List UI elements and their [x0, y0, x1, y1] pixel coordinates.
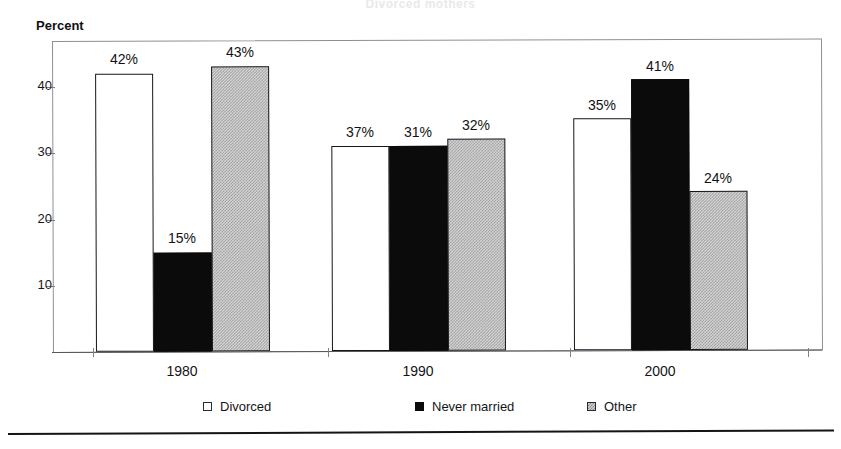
- legend-item-other: Other: [587, 399, 637, 414]
- legend-label: Never married: [432, 399, 514, 414]
- bar-other-1980: [211, 66, 270, 351]
- legend-item-never: Never married: [415, 399, 514, 414]
- chart-legend: DivorcedNever marriedOther: [0, 399, 841, 421]
- bar-never-1980: [154, 252, 212, 351]
- x-axis-category-label: 2000: [553, 363, 767, 379]
- bar-divorced-1990: [331, 146, 390, 351]
- bar-never-2000: [631, 79, 690, 350]
- y-axis-tick-label: 20: [10, 211, 52, 226]
- legend-swatch-icon: [415, 402, 424, 411]
- bar-other-1990: [447, 139, 506, 351]
- legend-label: Other: [604, 399, 637, 414]
- y-axis-tick-label: 30: [10, 144, 52, 159]
- bar-divorced-2000: [573, 118, 632, 350]
- y-axis: 10203040: [0, 0, 52, 449]
- bar-other-2000: [689, 191, 747, 350]
- cropped-title: Divorced mothers: [0, 0, 841, 11]
- y-axis-tick-label: 40: [10, 78, 52, 93]
- bar-value-label: 42%: [87, 51, 161, 67]
- legend-item-divorced: Divorced: [203, 399, 271, 414]
- bar-value-label: 15%: [145, 230, 219, 246]
- legend-swatch-icon: [203, 402, 212, 411]
- legend-label: Divorced: [220, 399, 271, 414]
- bar-value-label: 24%: [681, 170, 755, 186]
- bar-divorced-1980: [95, 74, 154, 352]
- footer-rule: [8, 429, 834, 435]
- y-axis-tick-label: 10: [10, 277, 52, 292]
- x-axis-category-label: 1980: [75, 363, 289, 379]
- chart-figure: Divorced mothers Percent 10203040 42%15%…: [0, 0, 841, 449]
- bar-value-label: 41%: [623, 58, 697, 74]
- bar-value-label: 43%: [203, 44, 277, 60]
- x-axis-category-label: 1990: [311, 363, 525, 379]
- bar-value-label: 35%: [565, 97, 639, 113]
- legend-swatch-icon: [587, 402, 596, 411]
- bar-value-label: 32%: [439, 117, 513, 133]
- bar-never-1990: [389, 146, 448, 351]
- bars-container: [52, 39, 823, 352]
